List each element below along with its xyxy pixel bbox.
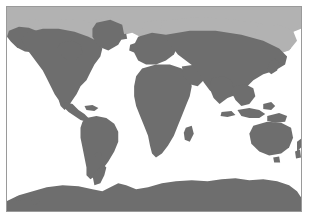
land-iceland: [120, 34, 127, 40]
land-tasmania: [273, 157, 280, 163]
map-canvas[interactable]: [7, 7, 301, 211]
world-map-figure: [0, 0, 310, 221]
map-frame: [6, 6, 302, 212]
